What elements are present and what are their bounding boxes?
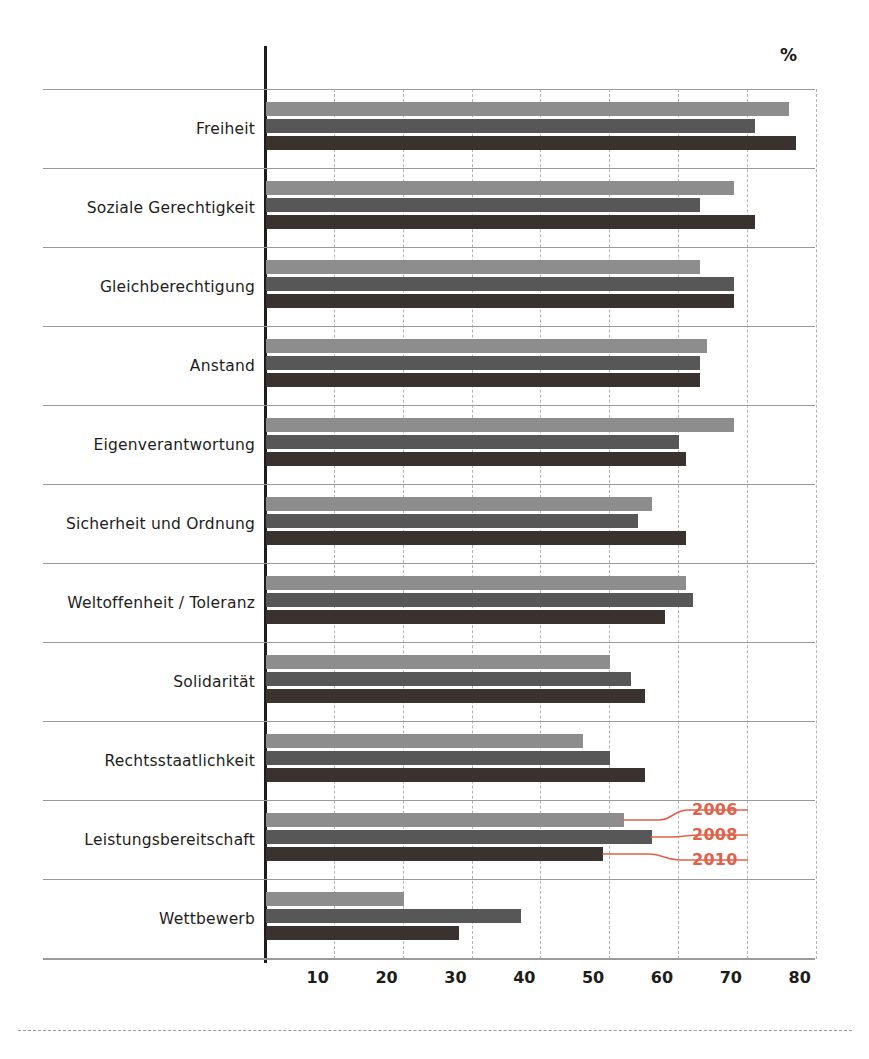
- x-axis-line: [43, 959, 815, 960]
- chart-row: Anstand: [0, 326, 869, 405]
- bar-group: [266, 418, 869, 474]
- chart-row: Rechtsstaatlichkeit: [0, 721, 869, 800]
- bar-group: [266, 892, 869, 948]
- x-tick-label-50: 50: [582, 968, 609, 987]
- bar-chart: % FreiheitSoziale GerechtigkeitGleichber…: [0, 0, 869, 1059]
- bar-2006: [266, 892, 404, 906]
- x-tick-label-20: 20: [375, 968, 402, 987]
- x-tick-label-70: 70: [720, 968, 747, 987]
- bar-2010: [266, 689, 645, 703]
- annotation-label-2010: 2010: [692, 850, 738, 869]
- bar-2006: [266, 576, 686, 590]
- x-tick-label-40: 40: [513, 968, 540, 987]
- annotation-label-2008: 2008: [692, 825, 738, 844]
- percent-unit-label: %: [780, 45, 797, 65]
- chart-row: Weltoffenheit / Toleranz: [0, 563, 869, 642]
- bar-2008: [266, 198, 700, 212]
- bar-2010: [266, 294, 734, 308]
- category-label: Solidarität: [173, 673, 255, 691]
- category-label: Soziale Gerechtigkeit: [87, 199, 255, 217]
- category-label: Anstand: [190, 357, 255, 375]
- x-tick-label-60: 60: [651, 968, 678, 987]
- plot-area: FreiheitSoziale GerechtigkeitGleichberec…: [0, 89, 869, 959]
- category-label: Rechtsstaatlichkeit: [105, 752, 255, 770]
- x-tick-label-30: 30: [444, 968, 471, 987]
- chart-row: Eigenverantwortung: [0, 405, 869, 484]
- bar-2006: [266, 655, 610, 669]
- chart-row: Soziale Gerechtigkeit: [0, 168, 869, 247]
- bar-2010: [266, 926, 459, 940]
- bottom-divider: [18, 1030, 852, 1031]
- category-label: Eigenverantwortung: [94, 436, 255, 454]
- chart-row: Sicherheit und Ordnung: [0, 484, 869, 563]
- bar-group: [266, 576, 869, 632]
- bar-2010: [266, 452, 686, 466]
- category-label: Wettbewerb: [159, 910, 255, 928]
- bar-group: [266, 734, 869, 790]
- bar-2010: [266, 610, 665, 624]
- bar-2008: [266, 119, 755, 133]
- chart-row: Leistungsbereitschaft: [0, 800, 869, 879]
- bar-2006: [266, 418, 734, 432]
- bar-2008: [266, 593, 693, 607]
- bar-2006: [266, 339, 707, 353]
- bar-group: [266, 655, 869, 711]
- annotation-label-2006: 2006: [692, 800, 738, 819]
- bar-2006: [266, 734, 583, 748]
- chart-row: Wettbewerb: [0, 879, 869, 958]
- bar-group: [266, 339, 869, 395]
- chart-row: Gleichberechtigung: [0, 247, 869, 326]
- chart-row: Solidarität: [0, 642, 869, 721]
- bar-2010: [266, 136, 796, 150]
- bar-2006: [266, 181, 734, 195]
- category-label: Sicherheit und Ordnung: [66, 515, 255, 533]
- bar-2006: [266, 260, 700, 274]
- bar-group: [266, 813, 869, 869]
- x-tick-label-10: 10: [307, 968, 334, 987]
- bar-group: [266, 181, 869, 237]
- bar-2008: [266, 909, 521, 923]
- bar-2008: [266, 672, 631, 686]
- bar-2008: [266, 435, 679, 449]
- bar-2010: [266, 531, 686, 545]
- bar-2006: [266, 497, 652, 511]
- bar-2008: [266, 751, 610, 765]
- bar-2008: [266, 277, 734, 291]
- bar-2008: [266, 830, 652, 844]
- bar-2008: [266, 356, 700, 370]
- bar-2010: [266, 373, 700, 387]
- bar-group: [266, 497, 869, 553]
- bar-2010: [266, 215, 755, 229]
- bar-2008: [266, 514, 638, 528]
- bar-2010: [266, 847, 603, 861]
- category-label: Gleichberechtigung: [100, 278, 255, 296]
- category-label: Freiheit: [196, 120, 255, 138]
- bar-2010: [266, 768, 645, 782]
- bar-group: [266, 260, 869, 316]
- bar-group: [266, 102, 869, 158]
- category-label: Leistungsbereitschaft: [84, 831, 255, 849]
- x-tick-label-80: 80: [789, 968, 816, 987]
- bar-2006: [266, 813, 624, 827]
- bar-2006: [266, 102, 789, 116]
- chart-row: Freiheit: [0, 89, 869, 168]
- category-label: Weltoffenheit / Toleranz: [67, 594, 255, 612]
